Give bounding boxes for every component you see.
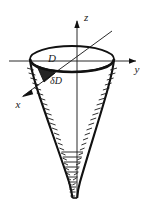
label-region-D: D: [47, 52, 56, 64]
x-axis: [22, 31, 113, 97]
z-axis-arrowhead: [74, 20, 79, 28]
y-axis: [9, 58, 136, 63]
figure-container: D δD z y x: [0, 0, 154, 205]
label-axis-z: z: [83, 11, 89, 23]
label-axis-y: y: [134, 63, 140, 75]
x-axis-arrowhead: [22, 90, 34, 98]
label-axis-x: x: [15, 98, 21, 110]
funnel-surface: [27, 46, 117, 198]
funnel-diagram: D δD z y x: [0, 0, 154, 205]
label-region-delta-D: δD: [50, 75, 63, 86]
hatching-right: [72, 68, 117, 190]
